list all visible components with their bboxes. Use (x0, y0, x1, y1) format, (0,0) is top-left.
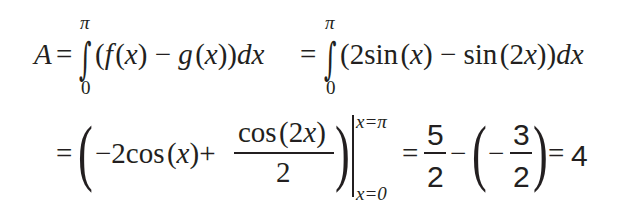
minus-sign: − (450, 139, 466, 168)
equals-sign: = (548, 139, 564, 168)
fraction-numerator: 5 (427, 118, 444, 152)
lower-limit: 0 (81, 77, 91, 99)
eval-lower: x=0 (356, 183, 387, 205)
upper-limit: π (325, 12, 335, 34)
final-result: 4 (571, 139, 588, 173)
fraction-bar (424, 152, 446, 154)
fraction-bar (234, 152, 334, 154)
fraction-denominator: 2 (427, 160, 444, 194)
negative-sign: − (488, 139, 504, 168)
equals-sign: = (300, 40, 316, 69)
fraction-numerator: 3 (513, 118, 530, 152)
right-paren: ) (533, 110, 548, 195)
fraction-bar (510, 152, 532, 154)
evaluation-bar (352, 115, 354, 197)
area-symbol: A (34, 40, 52, 69)
equals-sign: = (56, 139, 72, 168)
equals-sign: = (56, 40, 72, 69)
right-paren: ) (335, 110, 350, 195)
upper-limit: π (80, 12, 90, 34)
eval-upper: x=π (356, 111, 387, 133)
equals-sign: = (402, 139, 418, 168)
fraction-denominator: 2 (276, 158, 291, 187)
lower-limit: 0 (326, 77, 336, 99)
left-paren: ( (472, 110, 487, 195)
antiderivative-term1: −2cos (x)+ (95, 139, 216, 168)
left-paren: ( (78, 110, 93, 195)
integrand-2: (2sin (x) − sin (2x))dx (340, 40, 584, 69)
fraction-numerator: cos (2x) (238, 118, 326, 147)
integrand-1: (f (x) − g (x))dx (95, 40, 264, 69)
fraction-denominator: 2 (513, 160, 530, 194)
